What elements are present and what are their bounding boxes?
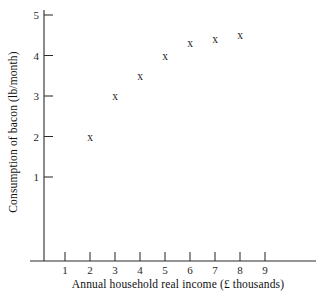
y-tick-label: 3: [34, 90, 40, 102]
x-tick-label: 7: [212, 264, 218, 276]
data-point-marker: x: [137, 70, 143, 82]
scatter-chart-figure: 12345 123456789 xxxxxxx Annual household…: [0, 0, 323, 296]
data-point-markers: xxxxxxx: [87, 29, 243, 142]
data-point-marker: x: [87, 131, 93, 143]
data-point-marker: x: [187, 37, 193, 49]
y-tick-label: 1: [34, 171, 40, 183]
y-tick-label: 4: [34, 50, 40, 62]
data-point-marker: x: [212, 33, 218, 45]
x-tick-label: 9: [262, 264, 268, 276]
x-tick-label: 1: [62, 264, 68, 276]
x-tick-label: 3: [112, 264, 118, 276]
x-tick-label: 5: [162, 264, 168, 276]
x-tick-label: 8: [237, 264, 243, 276]
y-axis-ticks: 12345: [34, 9, 54, 183]
data-point-marker: x: [112, 90, 118, 102]
x-tick-label: 4: [137, 264, 143, 276]
data-point-marker: x: [162, 50, 168, 62]
data-point-marker: x: [237, 29, 243, 41]
x-axis-ticks: 123456789: [62, 252, 268, 276]
chart-canvas: 12345 123456789 xxxxxxx Annual household…: [0, 0, 323, 296]
chart-axes: [30, 10, 316, 261]
y-tick-label: 5: [34, 9, 40, 21]
x-tick-label: 2: [87, 264, 93, 276]
y-axis-label: Consumption of bacon (lb/month): [7, 51, 20, 213]
x-axis-label: Annual household real income (£ thousand…: [72, 278, 284, 291]
y-tick-label: 2: [34, 131, 40, 143]
x-tick-label: 6: [187, 264, 193, 276]
